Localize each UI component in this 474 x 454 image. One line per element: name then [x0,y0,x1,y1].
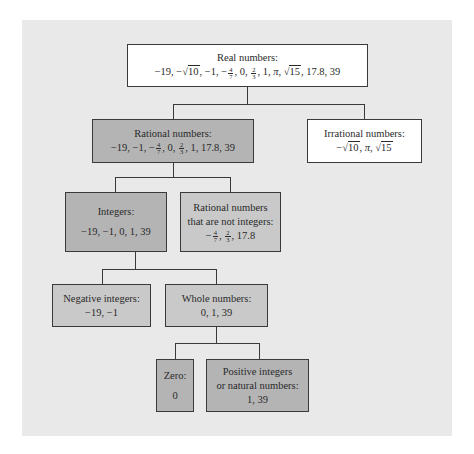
node-label: Whole numbers: [182,292,252,306]
node-noninteger-rationals: Rational numbers that are not integers: … [180,192,281,252]
node-members: −47, 23, 17.8 [206,229,255,243]
node-real-numbers: Real numbers: −19, −√10, −1, −47, 0, 23,… [127,44,368,87]
node-label-line2: or natural numbers: [216,379,298,393]
connector [102,269,103,284]
node-members: −19, −1 [85,306,118,320]
sqrt-symbol: √10 [342,141,359,155]
node-label: Zero: [164,369,187,383]
connector [175,343,176,359]
fraction: 47 [228,67,233,80]
connector [135,251,136,269]
node-positive-integers: Positive integers or natural numbers: 1,… [206,359,309,412]
connector [175,343,260,344]
node-members: 1, 39 [247,393,268,407]
node-label: Negative integers: [63,292,140,306]
connector [216,269,217,284]
node-label: Irrational numbers: [324,127,405,141]
node-label-line2: that are not integers: [187,215,273,229]
sqrt-symbol: √15 [375,141,392,155]
node-members: 0, 1, 39 [201,306,233,320]
node-members: −19, −1, 0, 1, 39 [81,225,151,239]
node-members: 0 [172,389,177,403]
fraction: 23 [251,67,256,80]
node-members: −√10, π, √15 [336,141,392,155]
node-irrational-numbers: Irrational numbers: −√10, π, √15 [307,119,422,163]
connector [115,177,231,178]
node-members: −19, −√10, −1, −47, 0, 23, 1, π, √15, 17… [155,65,341,79]
connector [259,343,260,359]
node-negative-integers: Negative integers: −19, −1 [52,284,151,327]
sqrt-symbol: √15 [284,65,301,79]
node-zero: Zero: 0 [156,359,194,412]
connector [173,162,174,177]
node-integers: Integers: −19, −1, 0, 1, 39 [65,192,167,252]
connector [102,269,217,270]
node-label: Real numbers: [217,51,278,65]
fraction: 23 [179,142,184,155]
connector [364,104,365,119]
fraction: 47 [156,142,161,155]
connector [216,326,217,343]
connector [115,177,116,192]
node-label-line1: Rational numbers [193,201,267,215]
node-label-line1: Positive integers [223,365,293,379]
connector [247,86,248,104]
node-rational-numbers: Rational numbers: −19, −1, −47, 0, 23, 1… [92,119,254,163]
node-whole-numbers: Whole numbers: 0, 1, 39 [165,284,268,327]
connector [173,104,365,105]
connector [173,104,174,119]
connector [230,177,231,192]
node-label: Rational numbers: [134,127,211,141]
sqrt-symbol: √10 [182,65,199,79]
fraction: 47 [213,230,218,243]
node-members: −19, −1, −47, 0, 23, 1, 17.8, 39 [111,141,235,155]
node-label: Integers: [98,205,135,219]
fraction: 23 [225,230,230,243]
